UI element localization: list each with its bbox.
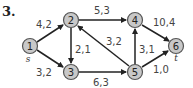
svg-text:1: 1 [27,41,33,52]
edge-label-5-6: 1,0 [153,64,169,75]
svg-text:6: 6 [173,41,179,52]
edge-label-5-2: 3,2 [106,36,122,47]
node-6: 6 t [169,39,184,64]
edge-label-2-3: 2,1 [75,44,91,55]
node-1: 1 s [23,39,38,65]
svg-text:5: 5 [132,67,138,78]
source-label: s [26,54,31,64]
network-diagram: 4,2 3,2 2,1 5,3 3,2 6,3 3,1 10,4 1,0 1 s… [0,0,193,88]
svg-text:3: 3 [68,67,74,78]
node-5: 5 [128,65,143,80]
node-3: 3 [64,65,79,80]
svg-text:2: 2 [68,15,74,26]
edge-label-2-4: 5,3 [94,5,110,16]
edge-1-3 [37,50,63,67]
edge-labels: 4,2 3,2 2,1 5,3 3,2 6,3 3,1 10,4 1,0 [36,5,175,88]
sink-label: t [174,53,178,63]
edge-label-5-4: 3,1 [139,44,155,55]
edge-label-1-2: 4,2 [36,19,52,30]
edge-label-1-3: 3,2 [36,67,52,78]
edge-label-3-5: 6,3 [93,77,109,88]
node-4: 4 [128,13,143,28]
edge-label-4-6: 10,4 [153,17,175,28]
node-2: 2 [64,13,79,28]
svg-text:4: 4 [132,15,138,26]
